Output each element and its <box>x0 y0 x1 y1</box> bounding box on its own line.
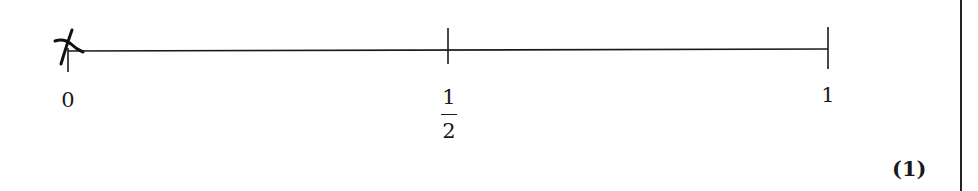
page-margin-line <box>960 0 962 191</box>
handwritten-cross-mark-icon <box>55 30 83 64</box>
tick-label-half: 1 2 <box>441 87 457 142</box>
tick-label-zero: 0 <box>61 90 74 111</box>
fraction-numerator: 1 <box>442 87 455 114</box>
tick-label-one: 1 <box>821 85 834 106</box>
number-line-diagram: 0 1 2 1 (1) <box>0 0 978 191</box>
marks-allocation: (1) <box>892 158 926 179</box>
fraction-denominator: 2 <box>442 115 455 142</box>
